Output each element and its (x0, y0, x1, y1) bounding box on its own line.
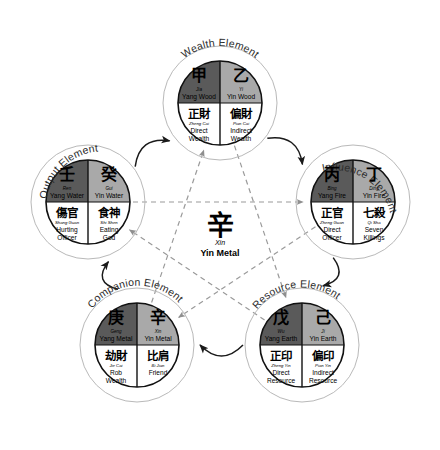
ring-label-wealth: Wealth Element (179, 36, 262, 60)
right-relation-resource-english-1: Indirect (312, 369, 334, 376)
left-relation-output-english-2: Officer (57, 234, 77, 241)
yin-stem-influence-english: Yin Fire (363, 192, 386, 199)
yin-stem-output-english: Yin Water (95, 192, 124, 199)
right-relation-output-hanzi: 食神 (98, 206, 120, 220)
center-english: Yin Metal (200, 248, 239, 258)
producing-arrow-influence-to-resource (323, 258, 339, 286)
yang-stem-output-pinyin: Ren (63, 186, 72, 191)
yang-stem-wealth-hanzi: 甲 (191, 66, 207, 85)
yin-stem-companion-hanzi: 辛 (150, 308, 166, 327)
left-relation-output-hanzi: 傷官 (55, 206, 78, 220)
right-relation-influence-english-1: Seven (365, 226, 384, 233)
yin-stem-companion-english: Yin Metal (144, 335, 172, 342)
right-relation-companion-hanzi: 比肩 (147, 349, 169, 363)
right-relation-wealth-hanzi: 偏財 (230, 107, 253, 121)
right-relation-influence-hanzi: 七殺 (363, 206, 386, 220)
left-relation-companion-english-2: Wealth (106, 377, 127, 384)
yang-stem-output-english: Yang Water (50, 192, 85, 200)
right-relation-wealth-english-2: Wealth (231, 135, 252, 142)
element-node-influence[interactable]: Influence Element丙BingYang Fire丁DingYin … (296, 145, 410, 259)
five-element-diagram: Wealth Element甲JiaYang Wood乙YiYin Wood正財… (0, 0, 440, 450)
right-relation-resource-pinyin: Pian Yin (315, 363, 331, 368)
producing-arrow-resource-to-companion (200, 345, 243, 356)
yang-stem-resource-english: Yang Earth (265, 335, 298, 343)
yang-stem-influence-pinyin: Bing (327, 186, 337, 191)
left-relation-resource-english-2: Resource (267, 377, 296, 384)
left-relation-wealth-pinyin: Zheng Cai (188, 121, 210, 126)
yang-stem-companion-pinyin: Geng (110, 329, 122, 334)
center-hanzi: 辛 (207, 210, 234, 241)
left-relation-wealth-english-1: Direct (190, 127, 207, 134)
left-relation-companion-hanzi: 劫財 (105, 349, 128, 363)
left-relation-wealth-english-2: Wealth (189, 135, 210, 142)
yin-stem-resource-hanzi: 己 (315, 308, 331, 327)
left-relation-companion-pinyin: Jie Cai (108, 363, 123, 368)
yang-stem-companion-hanzi: 庚 (108, 308, 124, 327)
element-node-resource[interactable]: Resource Element戊WuYang Earth己JiYin Eart… (245, 277, 359, 402)
producing-arrow-wealth-to-influence (267, 138, 302, 165)
element-node-companion[interactable]: Companion Element庚GengYang Metal辛XinYin … (80, 276, 194, 402)
element-node-wealth[interactable]: Wealth Element甲JiaYang Wood乙YiYin Wood正財… (163, 36, 277, 160)
right-relation-wealth-english-1: Indirect (230, 127, 252, 134)
yin-stem-output-hanzi: 癸 (100, 165, 118, 184)
left-relation-output-english-1: Hurting (56, 226, 78, 234)
yin-stem-resource-english: Yin Earth (310, 335, 337, 342)
right-relation-influence-pinyin: Qi Sha (367, 220, 381, 225)
left-relation-influence-hanzi: 正官 (321, 206, 343, 220)
yang-stem-influence-hanzi: 丙 (324, 165, 340, 184)
right-relation-influence-english-2: Killings (364, 234, 386, 242)
yang-stem-wealth-english: Yang Wood (182, 93, 216, 101)
right-relation-output-pinyin: Shi Shen (100, 220, 118, 225)
left-relation-wealth-hanzi: 正財 (188, 107, 211, 121)
center-pinyin: Xin (214, 239, 225, 246)
right-relation-resource-hanzi: 偏印 (312, 349, 334, 363)
yang-stem-resource-hanzi: 戊 (273, 308, 289, 327)
right-relation-output-english-2: God (103, 234, 116, 241)
right-relation-output-english-1: Eating (100, 226, 119, 234)
element-node-output[interactable]: Output Element壬RenYang Water癸GuiYin Wate… (31, 142, 145, 259)
left-relation-companion-english-1: Rob (110, 369, 122, 376)
yang-stem-influence-english: Yang Fire (318, 192, 346, 200)
left-relation-influence-english-1: Direct (323, 226, 340, 233)
yin-stem-wealth-hanzi: 乙 (233, 66, 249, 85)
left-relation-output-pinyin: Shang Guan (55, 220, 80, 225)
left-relation-influence-pinyin: Zheng Guan (319, 220, 344, 225)
producing-arrow-output-to-wealth (135, 140, 169, 166)
left-relation-resource-pinyin: Zheng Yin (270, 363, 291, 368)
yin-stem-output-pinyin: Gui (105, 186, 113, 191)
yang-stem-resource-pinyin: Wu (278, 329, 285, 334)
center-day-master: 辛 Xin Yin Metal (200, 210, 239, 258)
yin-stem-influence-hanzi: 丁 (366, 165, 382, 184)
yin-stem-wealth-english: Yin Wood (227, 93, 256, 100)
right-relation-wealth-pinyin: Pian Cai (233, 121, 250, 126)
yang-stem-output-hanzi: 壬 (59, 165, 75, 184)
left-relation-influence-english-2: Officer (322, 234, 342, 241)
controlling-arrow-wealth-to-resource (234, 146, 286, 298)
yin-stem-influence-pinyin: Ding (369, 186, 379, 191)
right-relation-resource-english-2: Resource (309, 377, 338, 384)
left-relation-resource-english-1: Direct (272, 369, 289, 376)
diagram-canvas: Wealth Element甲JiaYang Wood乙YiYin Wood正財… (0, 0, 440, 450)
right-relation-companion-english-1: Friend (149, 369, 168, 376)
yang-stem-companion-english: Yang Metal (100, 335, 133, 343)
right-relation-companion-pinyin: Bi Jian (152, 363, 166, 368)
yin-stem-companion-pinyin: Xin (154, 329, 162, 334)
left-relation-resource-hanzi: 正印 (270, 349, 292, 363)
yang-stem-wealth-pinyin: Jia (195, 87, 202, 92)
